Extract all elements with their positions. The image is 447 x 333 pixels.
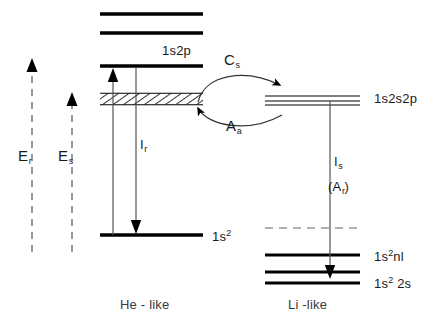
caption-he-like: He - like [120, 298, 169, 311]
li-level-1s2-2s-label: 1s2 2s [374, 277, 411, 290]
energy-axis-Es [67, 92, 78, 252]
transition-Ir-label: Ir [140, 138, 147, 151]
energy-axis-Er-label: Er [18, 148, 31, 163]
transition-Is-label: Is [334, 155, 343, 168]
energy-axis-Es-label: Es [58, 148, 73, 163]
he-level-1s2p-label: 1s2p [162, 44, 191, 57]
process-arrow-capture-label: Cs [224, 52, 240, 67]
energy-level-diagram: Er Es 1s2p Ir 1s2 Cs Aa 1s2s2p Is (Ar) 1… [0, 0, 447, 333]
li-level-1s2s2p-label: 1s2s2p [374, 92, 417, 105]
he-level-ground-label: 1s2 [212, 230, 231, 243]
process-arrow-capture [198, 76, 280, 102]
caption-li-like: Li -like [288, 298, 327, 311]
he-level-autoionizing-band [100, 93, 203, 104]
li-level-1s2nl-label: 1s2nl [374, 250, 404, 263]
transition-Is-alt-label: (Ar) [328, 180, 349, 193]
li-level-1s2s2p [265, 96, 360, 105]
process-arrow-autoionization-label: Aa [226, 118, 241, 133]
